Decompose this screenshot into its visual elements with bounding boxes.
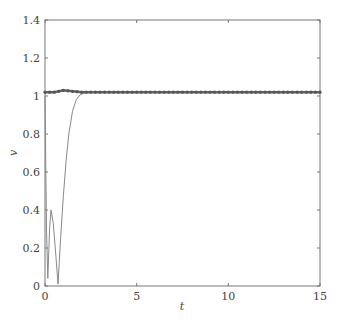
data-marker: [53, 91, 56, 94]
y-tick-label: 0.2: [23, 242, 41, 255]
data-marker: [318, 91, 321, 94]
data-marker: [121, 91, 124, 94]
data-marker: [231, 91, 234, 94]
data-marker: [94, 91, 97, 94]
data-marker: [167, 91, 170, 94]
data-marker: [236, 91, 239, 94]
data-marker: [199, 91, 202, 94]
data-marker: [144, 91, 147, 94]
data-marker: [98, 91, 101, 94]
data-marker: [277, 91, 280, 94]
y-tick-label: 1.4: [23, 14, 41, 27]
data-marker: [309, 91, 312, 94]
data-marker: [296, 91, 299, 94]
data-marker: [43, 91, 46, 94]
data-marker: [158, 91, 161, 94]
data-marker: [135, 91, 138, 94]
y-tick-label: 0.4: [23, 204, 41, 217]
data-marker: [176, 91, 179, 94]
data-marker: [305, 91, 308, 94]
data-marker: [282, 91, 285, 94]
data-marker: [85, 91, 88, 94]
data-marker: [181, 91, 184, 94]
y-axis-label: v: [7, 149, 20, 156]
data-marker: [131, 91, 134, 94]
data-marker: [163, 91, 166, 94]
data-marker: [149, 91, 152, 94]
data-marker: [195, 91, 198, 94]
data-marker: [140, 91, 143, 94]
data-marker: [71, 90, 74, 93]
data-marker: [250, 91, 253, 94]
data-marker: [108, 91, 111, 94]
data-marker: [103, 91, 106, 94]
data-marker: [66, 89, 69, 92]
data-marker: [204, 91, 207, 94]
data-marker: [291, 91, 294, 94]
data-marker: [126, 91, 129, 94]
x-tick-label: 5: [133, 290, 140, 303]
data-marker: [172, 91, 175, 94]
line-chart: 00.20.40.60.811.21.4 051015 t v: [0, 0, 341, 324]
data-marker: [222, 91, 225, 94]
data-marker: [273, 91, 276, 94]
data-marker: [57, 90, 60, 93]
data-marker: [245, 91, 248, 94]
data-marker: [286, 91, 289, 94]
data-marker: [76, 90, 79, 93]
y-tick-label: 1: [33, 90, 40, 103]
data-marker: [227, 91, 230, 94]
y-tick-label: 0.8: [23, 128, 41, 141]
data-marker: [268, 91, 271, 94]
data-marker: [112, 91, 115, 94]
data-marker: [186, 91, 189, 94]
data-marker: [213, 91, 216, 94]
data-marker: [263, 91, 266, 94]
data-marker: [48, 91, 51, 94]
data-marker: [300, 91, 303, 94]
x-axis-label: t: [180, 300, 185, 313]
x-tick-label: 0: [42, 290, 49, 303]
x-tick-label: 10: [221, 290, 235, 303]
y-tick-label: 1.2: [23, 52, 41, 65]
data-marker: [314, 91, 317, 94]
chart-background: [0, 0, 341, 324]
data-marker: [80, 91, 83, 94]
x-tick-label: 15: [313, 290, 327, 303]
data-marker: [208, 91, 211, 94]
data-marker: [190, 91, 193, 94]
data-marker: [218, 91, 221, 94]
y-tick-label: 0: [33, 280, 40, 293]
data-marker: [153, 91, 156, 94]
data-marker: [241, 91, 244, 94]
data-marker: [89, 91, 92, 94]
data-marker: [62, 89, 65, 92]
data-marker: [117, 91, 120, 94]
data-marker: [254, 91, 257, 94]
data-marker: [259, 91, 262, 94]
y-tick-label: 0.6: [23, 166, 41, 179]
